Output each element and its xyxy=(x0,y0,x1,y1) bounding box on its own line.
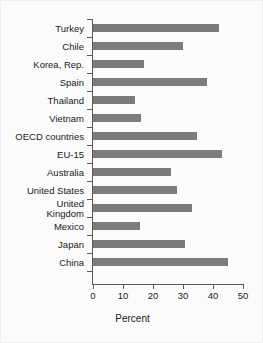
bar xyxy=(93,186,177,194)
x-axis-title: Percent xyxy=(1,313,263,324)
bar xyxy=(93,222,140,230)
bar xyxy=(93,24,219,32)
chart-figure: TurkeyChileKorea, Rep.SpainThailandVietn… xyxy=(0,0,263,343)
bar xyxy=(93,42,183,50)
category-label: Vietnam xyxy=(0,114,84,124)
y-axis-tick xyxy=(87,181,92,182)
y-axis-tick xyxy=(87,163,92,164)
x-axis-tick-label: 10 xyxy=(108,290,138,301)
category-label: China xyxy=(0,258,84,268)
y-axis-tick xyxy=(87,91,92,92)
y-axis-tick xyxy=(87,109,92,110)
x-axis-tick-label: 0 xyxy=(78,290,108,301)
category-label: Mexico xyxy=(0,222,84,232)
y-axis-tick xyxy=(87,55,92,56)
bar xyxy=(93,132,197,140)
x-axis-tick-label: 30 xyxy=(168,290,198,301)
y-axis-tick xyxy=(87,253,92,254)
y-axis-tick xyxy=(87,19,92,20)
x-axis-line xyxy=(92,284,244,285)
x-axis-tick xyxy=(243,285,244,289)
category-label: OECD countries xyxy=(0,132,84,142)
x-axis-tick xyxy=(123,285,124,289)
y-axis-tick xyxy=(87,199,92,200)
bar xyxy=(93,204,192,212)
category-label: Japan xyxy=(0,240,84,250)
category-label: Korea, Rep. xyxy=(0,60,84,70)
bar xyxy=(93,78,207,86)
y-axis-tick xyxy=(87,37,92,38)
bar xyxy=(93,60,144,68)
bar xyxy=(93,168,171,176)
y-axis-tick xyxy=(87,73,92,74)
category-label: Australia xyxy=(0,168,84,178)
category-label: Turkey xyxy=(0,24,84,34)
x-axis-tick-label: 20 xyxy=(138,290,168,301)
plot-area: TurkeyChileKorea, Rep.SpainThailandVietn… xyxy=(1,1,263,343)
y-axis-tick xyxy=(87,235,92,236)
bar xyxy=(93,150,222,158)
bar xyxy=(93,114,141,122)
x-axis-tick xyxy=(93,285,94,289)
category-label: Chile xyxy=(0,42,84,52)
x-axis-tick xyxy=(153,285,154,289)
category-label: EU-15 xyxy=(0,150,84,160)
x-axis-tick xyxy=(183,285,184,289)
bar xyxy=(93,96,135,104)
y-axis-tick xyxy=(87,217,92,218)
bar xyxy=(93,258,228,266)
y-axis-tick xyxy=(87,145,92,146)
category-label: United States xyxy=(0,186,84,196)
category-label: Spain xyxy=(0,78,84,88)
x-axis-tick-label: 50 xyxy=(228,290,258,301)
y-axis-tick xyxy=(87,127,92,128)
category-label: United Kingdom xyxy=(0,199,84,219)
y-axis-tick xyxy=(87,271,92,272)
bar xyxy=(93,240,185,248)
x-axis-tick xyxy=(213,285,214,289)
x-axis-tick-label: 40 xyxy=(198,290,228,301)
category-label: Thailand xyxy=(0,96,84,106)
